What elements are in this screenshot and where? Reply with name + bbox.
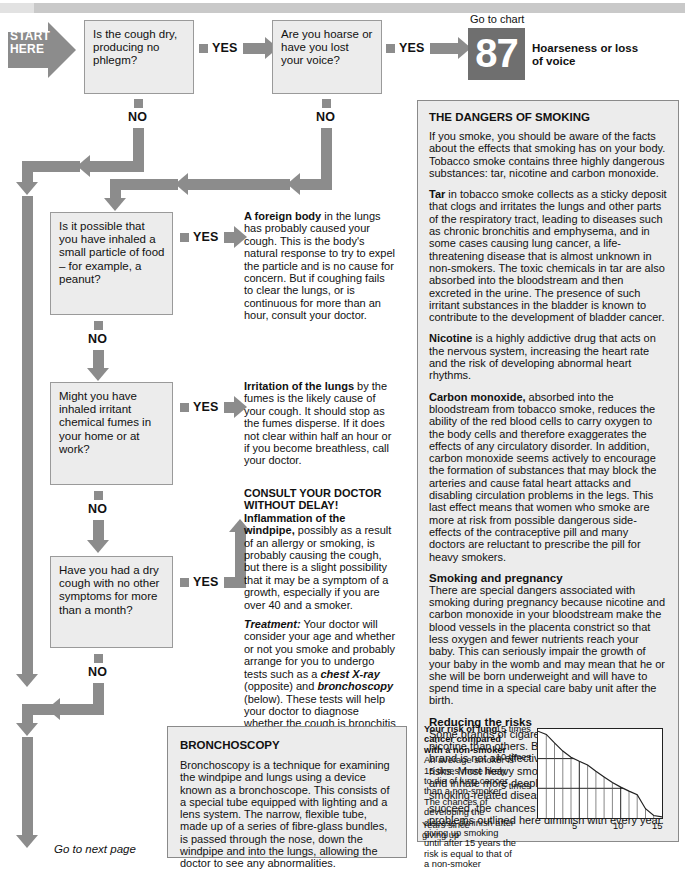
question-2-text: Are you hoarse or have you lost your voi…: [273, 21, 381, 68]
top-rule-left: [0, 3, 34, 13]
risk-graph: Your risk of lung cancer compared with a…: [420, 722, 678, 842]
answer-foreign-body-lead: A foreign body: [244, 210, 321, 222]
chest-xray-em: chest X-ray: [320, 668, 379, 680]
risk-graph-xlabel: Years since giving up: [422, 820, 470, 841]
bronchoscopy-panel: BRONCHOSCOPY Bronchoscopy is a technique…: [167, 726, 407, 858]
no-label-1: NO: [128, 110, 147, 124]
go-to-chart-caption: Go to chart: [470, 13, 524, 25]
answer-irritation-text: by the fumes is the likely cause of your…: [244, 380, 391, 466]
left-rail-long: [22, 232, 33, 677]
risk-graph-caption: Your risk of lung cancer compared with a…: [424, 724, 516, 870]
conn-q3no-vert: [93, 350, 104, 370]
top-rule: [34, 3, 685, 13]
risk-caption-body: An average smoker is 15 times more likel…: [424, 755, 516, 869]
no-marker-5: [94, 654, 103, 663]
risk-graph-plot: [537, 728, 663, 819]
yes-label-2: YES: [399, 41, 425, 55]
bronchoscopy-em: bronchoscopy: [317, 680, 393, 692]
yes-marker-2: [386, 44, 395, 53]
answer-consult-doctor: CONSULT YOUR DOCTOR WITHOUT DELAY! Infla…: [244, 487, 396, 767]
start-line-1: START: [10, 30, 70, 43]
pregnancy-body: There are special dangers associated wit…: [429, 584, 667, 707]
conn-q3no-head: [87, 368, 109, 381]
y-tick-5: 5 times: [475, 781, 531, 791]
carbon-monoxide-body: absorbed into the bloodstream from tobac…: [429, 391, 656, 563]
question-4-text: Might you have inhaled irritant chemical…: [51, 383, 172, 456]
answer-irritation-lead: Irritation of the lungs: [244, 380, 354, 392]
no-marker-2: [322, 99, 331, 108]
nicotine-lead: Nicotine: [429, 332, 472, 344]
conn-q4no-head: [87, 540, 109, 553]
conn-q1no-horiz: [90, 161, 144, 172]
conn-mid-head-down: [104, 198, 126, 211]
conn-q5no-horiz: [60, 704, 104, 715]
question-box-2[interactable]: Are you hoarse or have you lost your voi…: [272, 20, 382, 94]
left-rail-mid-head: [16, 674, 38, 687]
left-rail-head-2: [16, 723, 38, 736]
answer-irritation: Irritation of the lungs by the fumes is …: [244, 380, 396, 467]
yes-label-3: YES: [193, 230, 219, 244]
conn-q2no-elbow: [300, 179, 332, 190]
no-marker-3: [94, 321, 103, 330]
start-line-2: HERE: [10, 43, 70, 56]
conn-left-rail-vert: [22, 196, 33, 232]
chart-title: Hoarseness or loss of voice: [532, 42, 652, 67]
carbon-monoxide-lead: Carbon monoxide,: [429, 391, 526, 403]
conn-q4no-vert: [93, 520, 104, 542]
xlabel-line-1: Years since: [422, 820, 470, 830]
consult-heading-2: WITHOUT DELAY!: [244, 499, 396, 511]
yes-marker-4: [180, 403, 189, 412]
yes-marker-1: [199, 44, 208, 53]
conn-mid-horiz: [188, 179, 290, 190]
yes-label-4: YES: [193, 400, 219, 414]
question-1-text: Is the cough dry, producing no phlegm?: [85, 21, 193, 68]
chart-number-badge[interactable]: 87: [468, 28, 525, 80]
left-rail-footer-vert: [22, 737, 33, 837]
tar-body: in tobacco smoke collects as a sticky de…: [429, 188, 667, 323]
risk-curve-svg: [538, 729, 662, 818]
left-rail-footer-head: [16, 835, 38, 848]
yes-label-5: YES: [193, 575, 219, 589]
consult-heading-1: CONSULT YOUR DOCTOR: [244, 487, 396, 499]
y-tick-10: 10 times: [475, 752, 531, 762]
conn-left-rail-head: [16, 182, 38, 195]
yes-marker-3: [180, 233, 189, 242]
no-marker-4: [94, 491, 103, 500]
question-box-5[interactable]: Have you had a dry cough with no other s…: [50, 556, 173, 648]
bronchoscopy-body: Bronchoscopy is a technique for examinin…: [180, 759, 394, 870]
x-tick-10: 10: [613, 821, 623, 831]
treatment-lead: Treatment:: [244, 618, 301, 630]
tar-lead: Tar: [429, 188, 445, 200]
answer-foreign-body: A foreign body in the lungs has probably…: [244, 210, 396, 322]
xlabel-line-2: giving up: [422, 830, 470, 840]
smoking-heading: THE DANGERS OF SMOKING: [429, 111, 667, 123]
answer-foreign-body-text: in the lungs has probably caused your co…: [244, 210, 395, 321]
no-label-2: NO: [316, 110, 335, 124]
start-here-label: START HERE: [10, 30, 70, 55]
consult-body: possibly as a result of an allergy or sm…: [244, 524, 391, 610]
question-box-3[interactable]: Is it possible that you have inhaled a s…: [50, 212, 173, 315]
yes-label-1: YES: [212, 41, 238, 55]
treatment-text-2: (opposite) and: [244, 680, 317, 692]
yes-marker-5: [180, 578, 189, 587]
x-tick-5: 5: [572, 821, 577, 831]
yes-arrow-1-shaft: [243, 43, 265, 54]
yes-arrow-2-shaft: [430, 43, 458, 54]
footer-next-page: Go to next page: [54, 843, 136, 855]
bronchoscopy-heading: BRONCHOSCOPY: [180, 739, 394, 751]
question-box-1[interactable]: Is the cough dry, producing no phlegm?: [84, 20, 194, 94]
smoking-intro: If you smoke, you should be aware of the…: [429, 130, 667, 179]
no-label-5: NO: [88, 665, 107, 679]
pregnancy-heading: Smoking and pregnancy: [429, 572, 667, 584]
question-5-text: Have you had a dry cough with no other s…: [51, 557, 172, 617]
chart-number: 87: [468, 28, 525, 79]
question-3-text: Is it possible that you have inhaled a s…: [51, 213, 172, 286]
no-label-4: NO: [88, 502, 107, 516]
no-label-3: NO: [88, 332, 107, 346]
y-tick-15: 15 times: [475, 724, 531, 734]
question-box-4[interactable]: Might you have inhaled irritant chemical…: [50, 382, 173, 485]
no-marker-1: [134, 99, 143, 108]
x-tick-15: 15: [652, 821, 662, 831]
